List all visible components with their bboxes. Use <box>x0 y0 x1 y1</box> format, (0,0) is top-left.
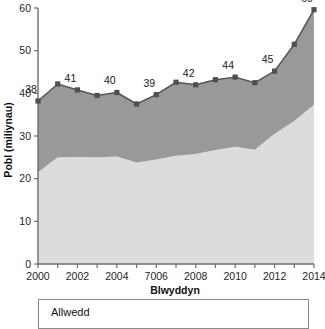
data-point-marker <box>114 90 119 95</box>
plot-area-bands <box>38 10 314 264</box>
data-point-marker <box>311 7 316 12</box>
y-tick-label: 50 <box>19 44 31 56</box>
x-tick-label: 2010 <box>223 270 247 282</box>
data-point-marker <box>134 101 139 106</box>
data-point-marker <box>35 98 40 103</box>
y-tick-label: 0 <box>25 258 31 270</box>
x-tick-label: 2012 <box>263 270 287 282</box>
data-point-label: 38 <box>25 83 37 95</box>
data-point-marker <box>154 92 159 97</box>
data-point-label: 40 <box>104 74 116 86</box>
x-tick-label: 2014 <box>302 270 325 282</box>
data-point-marker <box>292 42 297 47</box>
y-tick-label: 10 <box>19 215 31 227</box>
x-tick-label: 2000 <box>26 270 50 282</box>
data-point-marker <box>55 81 60 86</box>
x-tick-label: 2008 <box>184 270 208 282</box>
y-axis-ticks: 0102030405060 <box>19 2 38 270</box>
data-point-label: 39 <box>143 77 155 89</box>
y-tick-label: 30 <box>19 130 31 142</box>
data-point-marker <box>173 80 178 85</box>
x-axis-title: Blwyddyn <box>150 284 200 296</box>
data-point-label: 60 <box>301 0 313 4</box>
legend-box: Allwedd <box>38 299 309 329</box>
x-tick-label: 7006 <box>145 270 169 282</box>
data-point-label: 45 <box>262 53 274 65</box>
data-point-marker <box>272 69 277 74</box>
data-point-marker <box>75 87 80 92</box>
data-point-marker <box>213 77 218 82</box>
y-tick-label: 20 <box>19 172 31 184</box>
data-point-label: 44 <box>222 59 234 71</box>
data-point-marker <box>193 82 198 87</box>
x-tick-label: 2002 <box>66 270 90 282</box>
data-point-marker <box>252 80 257 85</box>
legend-title: Allwedd <box>39 300 308 318</box>
data-point-label: 41 <box>65 72 77 84</box>
data-point-marker <box>233 75 238 80</box>
x-tick-label: 2004 <box>105 270 129 282</box>
y-tick-label: 60 <box>19 2 31 14</box>
data-point-label: 42 <box>183 67 195 79</box>
data-point-marker <box>95 93 100 98</box>
x-axis-ticks: 20002002200470062008201020122014 <box>26 264 325 282</box>
y-axis-title: Pobl (miliynau) <box>2 102 14 177</box>
